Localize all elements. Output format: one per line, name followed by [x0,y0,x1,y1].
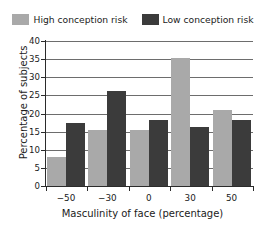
y-tick-mark-15 [41,132,45,133]
legend-entry-low-conception-risk: Low conception risk [142,14,254,25]
y-tick-mark-25 [41,95,45,96]
y-tick-mark-30 [41,77,45,78]
y-tick-mark-5 [41,168,45,169]
legend-label-high: High conception risk [33,14,127,25]
x-axis-title: Masculinity of face (percentage) [30,208,255,219]
plot-area [46,41,253,186]
chart-figure: High conception risk Low conception risk… [0,0,266,231]
bar-high-0 [47,157,66,186]
x-tick-mark-5 [253,187,254,191]
x-tick-mark-4 [212,187,213,191]
x-tick-label-3: 30 [173,194,207,203]
y-tick-mark-10 [41,150,45,151]
y-tick-mark-40 [41,41,45,42]
x-tick-label-1: −30 [90,194,124,203]
bar-high-1 [88,130,107,186]
x-tick-mark-0 [46,187,47,191]
x-tick-label-2: 0 [132,194,166,203]
x-tick-mark-1 [87,187,88,191]
bar-low-4 [232,120,251,186]
bar-high-2 [130,130,149,186]
bar-high-4 [213,110,232,186]
legend-swatch-icon-low [142,14,159,25]
legend-label-low: Low conception risk [163,14,254,25]
y-tick-mark-0 [41,186,45,187]
bar-low-2 [149,120,168,186]
x-axis-line [45,186,254,187]
bar-series-group [46,41,253,186]
x-tick-mark-3 [170,187,171,191]
y-tick-mark-35 [41,59,45,60]
x-tick-mark-2 [129,187,130,191]
bar-low-1 [107,91,126,186]
bar-low-0 [66,123,85,186]
bar-low-3 [190,127,209,186]
y-tick-label-0: 0 [20,182,40,191]
x-tick-label-4: 50 [215,194,249,203]
bar-high-3 [171,58,190,186]
y-tick-mark-20 [41,114,45,115]
x-tick-label-0: −50 [49,194,83,203]
y-axis-title: Percentage of subjects [18,23,29,183]
